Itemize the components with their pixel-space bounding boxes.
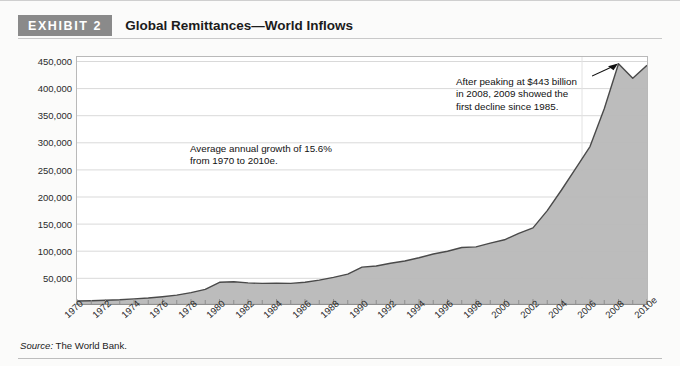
source-note: Source: The World Bank. [20,340,127,351]
x-tick-label: 2008 [603,298,626,320]
annotation-average-growth: Average annual growth of 15.6% from 1970… [190,143,332,168]
x-tick-label: 1976 [147,298,170,320]
annotation-arrow-icon [592,62,624,78]
bottom-divider [18,358,662,359]
x-tick-label: 2006 [575,298,598,320]
x-tick-label: 1984 [261,298,284,320]
x-axis-labels: 1970 1972 1974 1976 1978 1980 1982 1984 … [0,0,680,366]
x-tick-label: 1980 [204,298,227,320]
source-text: The World Bank. [53,340,127,351]
x-tick-label: 1972 [90,298,113,320]
x-tick-label: 1988 [318,298,341,320]
x-tick-label: 1982 [233,298,256,320]
x-tick-label: 2004 [546,298,569,320]
x-tick-label: 1996 [432,298,455,320]
x-tick-label: 2002 [518,298,541,320]
x-tick-label: 1974 [119,298,142,320]
exhibit-container: EXHIBIT 2 Global Remittances—World Inflo… [0,0,680,366]
x-tick-label: 1994 [404,298,427,320]
x-tick-label: 1998 [461,298,484,320]
x-tick-label: 1986 [290,298,313,320]
source-label: Source: [20,340,53,351]
x-tick-label: 1992 [375,298,398,320]
x-tick-label: 1970 [62,298,85,320]
annotation-peak-decline: After peaking at $443 billion in 2008, 2… [456,76,577,113]
x-tick-label: 2000 [489,298,512,320]
x-tick-label: 2010e [632,294,659,320]
x-tick-label: 1990 [347,298,370,320]
x-tick-label: 1978 [176,298,199,320]
